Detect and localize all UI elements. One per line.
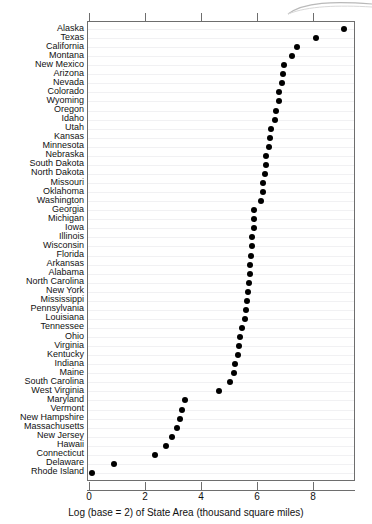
- gridline: [88, 56, 354, 57]
- data-point: [231, 370, 237, 376]
- gridline: [88, 310, 354, 311]
- x-tick-bottom: [313, 482, 314, 490]
- data-point: [262, 171, 268, 177]
- data-point: [341, 26, 347, 32]
- x-tick-top: [89, 13, 90, 21]
- gridline: [88, 210, 354, 211]
- gridline: [88, 174, 354, 175]
- data-point: [179, 407, 185, 413]
- x-tick-bottom: [257, 482, 258, 490]
- x-axis-title: Log (base = 2) of State Area (thousand s…: [0, 506, 372, 519]
- data-point: [227, 379, 233, 385]
- data-point: [246, 280, 252, 286]
- data-point: [273, 108, 279, 114]
- gridline: [88, 101, 354, 102]
- category-axis-labels: AlaskaTexasCaliforniaMontanaNew MexicoAr…: [0, 21, 84, 481]
- x-tick-bottom: [89, 482, 90, 490]
- gridline: [88, 400, 354, 401]
- gridline: [88, 473, 354, 474]
- gridline: [88, 265, 354, 266]
- gridline: [88, 419, 354, 420]
- data-point: [216, 388, 222, 394]
- data-point: [247, 271, 253, 277]
- data-point: [267, 135, 273, 141]
- gridline: [88, 382, 354, 383]
- gridline: [88, 183, 354, 184]
- gridline: [88, 355, 354, 356]
- data-point: [251, 225, 257, 231]
- gridline: [88, 65, 354, 66]
- data-point: [236, 343, 242, 349]
- data-point: [174, 425, 180, 431]
- data-point: [260, 189, 266, 195]
- x-tick-bottom: [145, 482, 146, 490]
- gridline: [88, 237, 354, 238]
- gridline: [88, 437, 354, 438]
- data-point: [289, 53, 295, 59]
- gridline: [88, 373, 354, 374]
- data-point: [280, 71, 286, 77]
- gridline: [88, 337, 354, 338]
- gridline: [88, 346, 354, 347]
- gridline: [88, 410, 354, 411]
- plot-area: [87, 21, 355, 481]
- data-point: [247, 262, 253, 268]
- data-point: [177, 416, 183, 422]
- gridline: [88, 47, 354, 48]
- gridline: [88, 455, 354, 456]
- data-point: [232, 361, 238, 367]
- gridline: [88, 328, 354, 329]
- x-tick-label: 4: [189, 491, 213, 503]
- gridline: [88, 301, 354, 302]
- gridline: [88, 464, 354, 465]
- gridline: [88, 228, 354, 229]
- gridline: [88, 156, 354, 157]
- data-point: [239, 325, 245, 331]
- x-axis-line: [87, 490, 355, 491]
- data-point: [251, 216, 257, 222]
- gridline: [88, 283, 354, 284]
- gridline: [88, 29, 354, 30]
- data-point: [268, 126, 274, 132]
- gridline: [88, 274, 354, 275]
- data-point: [243, 307, 249, 313]
- data-point: [249, 243, 255, 249]
- data-point: [111, 461, 117, 467]
- gridline: [88, 256, 354, 257]
- data-point: [237, 334, 243, 340]
- data-point: [169, 434, 175, 440]
- gridline: [88, 129, 354, 130]
- x-tick-top: [145, 13, 146, 21]
- data-point: [249, 234, 255, 240]
- x-tick-top: [313, 13, 314, 21]
- data-point: [294, 44, 300, 50]
- x-tick-bottom: [201, 482, 202, 490]
- gridline: [88, 92, 354, 93]
- x-tick-label: 6: [245, 491, 269, 503]
- gridline: [88, 201, 354, 202]
- gridline: [88, 83, 354, 84]
- gridline: [88, 446, 354, 447]
- data-point: [313, 35, 319, 41]
- data-point: [279, 80, 285, 86]
- data-point: [272, 117, 278, 123]
- gridline: [88, 428, 354, 429]
- gridline: [88, 246, 354, 247]
- data-point: [242, 316, 248, 322]
- chart-root: AlaskaTexasCaliforniaMontanaNew MexicoAr…: [0, 0, 372, 524]
- gridline: [88, 364, 354, 365]
- data-point: [263, 162, 269, 168]
- data-point: [276, 98, 282, 104]
- data-point: [266, 144, 272, 150]
- data-point: [276, 89, 282, 95]
- gridline: [88, 165, 354, 166]
- x-tick-top: [201, 13, 202, 21]
- category-label: Rhode Island: [0, 467, 84, 476]
- x-tick-label: 8: [301, 491, 325, 503]
- gridline: [88, 192, 354, 193]
- data-point: [244, 298, 250, 304]
- data-point: [163, 443, 169, 449]
- data-point: [260, 180, 266, 186]
- data-point: [245, 289, 251, 295]
- data-point: [263, 153, 269, 159]
